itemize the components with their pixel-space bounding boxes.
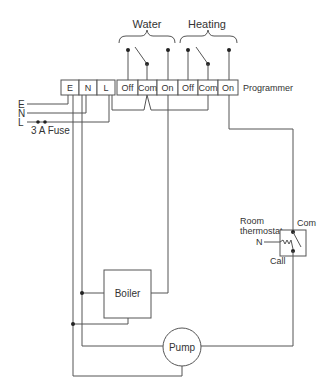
- terminal-heating-on: On: [222, 83, 234, 93]
- thermostat-call-label: Call: [270, 256, 286, 266]
- wiring-diagram: Water Heating E N L Off Com On Off Co: [0, 0, 332, 387]
- supply-l-label: L: [18, 117, 24, 128]
- call-to-pump-wire: [201, 256, 293, 346]
- water-on-wire: [151, 95, 168, 293]
- thermostat-com-label: Com: [297, 218, 316, 228]
- terminal-l: L: [103, 83, 108, 93]
- junction-dot: [80, 291, 84, 295]
- programmer-label: Programmer: [243, 83, 293, 93]
- boiler-earth-wire: [73, 318, 128, 324]
- terminal-water-com: Com: [138, 83, 157, 93]
- supply-wires: [27, 95, 109, 122]
- pump-label: Pump: [169, 342, 196, 353]
- terminal-water-on: On: [161, 83, 173, 93]
- heating-on-wire: [229, 95, 293, 230]
- heating-label: Heating: [188, 18, 226, 30]
- junction-dot: [71, 322, 75, 326]
- thermostat-n-label: N: [256, 237, 263, 247]
- thermostat-label-line2: thermostat: [240, 226, 283, 236]
- terminal-heating-com: Com: [198, 83, 217, 93]
- terminal-e: E: [67, 83, 73, 93]
- pump-earth-wire: [73, 366, 182, 376]
- fuse-label: 3 A Fuse: [31, 125, 70, 136]
- boiler-label: Boiler: [115, 288, 141, 299]
- heating-switch: [186, 47, 231, 80]
- water-brace: [119, 30, 175, 43]
- terminal-water-off: Off: [122, 83, 134, 93]
- water-label: Water: [133, 18, 162, 30]
- water-switch: [126, 47, 170, 80]
- live-bridge-wire: [112, 95, 208, 110]
- thermostat-label-line1: Room: [240, 216, 264, 226]
- heating-brace: [180, 30, 237, 43]
- terminal-heating-off: Off: [182, 83, 194, 93]
- terminal-n: N: [85, 83, 92, 93]
